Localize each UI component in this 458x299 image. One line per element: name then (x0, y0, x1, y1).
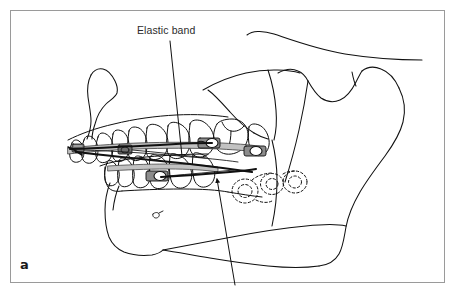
figure-root: Elastic band a (0, 0, 458, 299)
panel-letter: a (20, 258, 29, 271)
mandible-body (105, 183, 346, 255)
leader-elastic-band (170, 41, 182, 156)
bracket-upper-distal-band (244, 146, 266, 156)
mental-foramen (153, 211, 163, 218)
mandible-anterior-ramus (272, 81, 308, 226)
maxilla-outline (87, 69, 117, 139)
cranial-base-outline (203, 31, 422, 90)
callout-label-elastic-band: Elastic band (137, 25, 195, 36)
skull-illustration (0, 0, 458, 299)
maxilla-posterior (208, 70, 276, 140)
unerupted-tooth-roots (232, 171, 307, 203)
leader-lower (217, 179, 235, 285)
